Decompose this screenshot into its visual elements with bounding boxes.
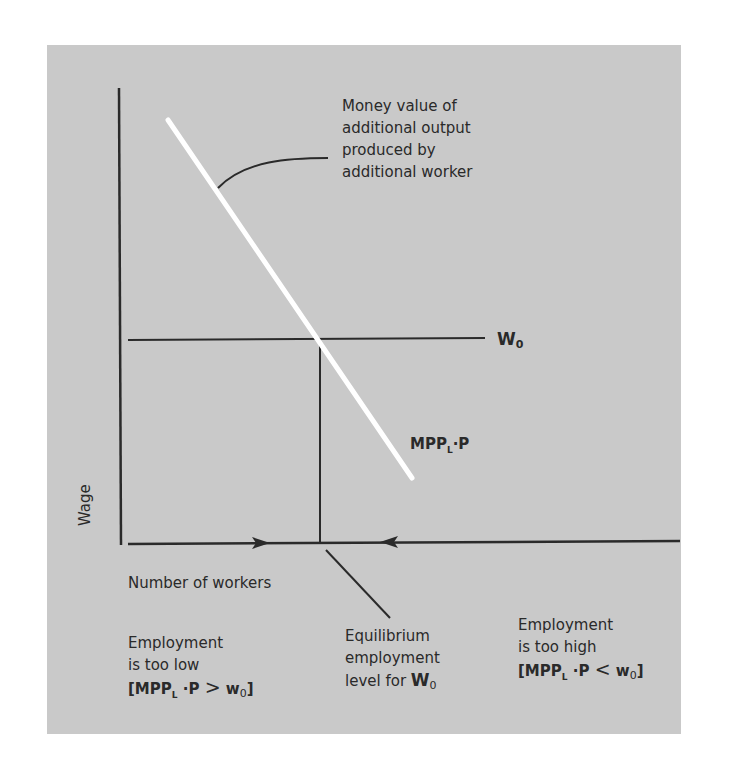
center-note-line-2: employment <box>345 647 440 669</box>
center-note: Equilibrium employment level for W0 <box>345 625 440 697</box>
center-note-w: W <box>411 670 430 690</box>
center-note-text: level for <box>345 672 411 690</box>
right-note-line-2: is too high <box>518 636 644 658</box>
formula-open: [MPP <box>128 680 172 698</box>
formula-w-sub: 0 <box>240 687 247 700</box>
w0-main: W <box>497 329 516 349</box>
callout-line-3: produced by <box>342 139 472 161</box>
y-axis-label: Wage <box>76 484 94 526</box>
mpp-callout: Money value of additional output produce… <box>342 95 472 183</box>
w0-sub: 0 <box>516 338 524 351</box>
y-axis <box>119 88 121 545</box>
x-axis <box>128 541 680 544</box>
formula-close: ] <box>637 662 644 680</box>
formula-w-sub: 0 <box>630 669 637 682</box>
center-note-line-3: level for W0 <box>345 669 440 697</box>
right-note: Employment is too high [MPPL ·P < w0] <box>518 614 644 688</box>
formula-open: [MPP <box>518 662 562 680</box>
formula-w: w <box>611 662 630 680</box>
formula-w: w <box>221 680 240 698</box>
right-note-line-1: Employment <box>518 614 644 636</box>
formula-close: ] <box>247 680 254 698</box>
formula-op: < <box>595 658 611 680</box>
right-note-formula: [MPPL ·P < w0] <box>518 658 644 688</box>
callout-line-2: additional output <box>342 117 472 139</box>
mpp-main: MPP <box>410 435 447 453</box>
center-note-sub: 0 <box>430 679 437 692</box>
mpp-tail: ·P <box>453 435 470 453</box>
center-note-line-1: Equilibrium <box>345 625 440 647</box>
formula-mid: ·P <box>568 662 595 680</box>
equilibrium-leader <box>326 550 390 618</box>
left-note: Employment is too low [MPPL ·P > w0] <box>128 632 254 706</box>
left-note-line-2: is too low <box>128 654 254 676</box>
w0-label: W0 <box>497 328 523 356</box>
callout-leader <box>218 158 328 188</box>
x-axis-label: Number of workers <box>128 572 271 594</box>
formula-op: > <box>205 676 221 698</box>
callout-line-4: additional worker <box>342 161 472 183</box>
mpp-label: MPPL·P <box>410 433 469 461</box>
callout-line-1: Money value of <box>342 95 472 117</box>
left-note-formula: [MPPL ·P > w0] <box>128 676 254 706</box>
left-note-line-1: Employment <box>128 632 254 654</box>
formula-mid: ·P <box>178 680 205 698</box>
w0-line <box>128 338 485 340</box>
